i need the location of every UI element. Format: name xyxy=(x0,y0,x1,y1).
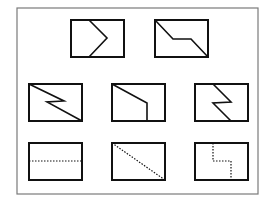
answer-figure-f xyxy=(29,143,82,180)
solid-line xyxy=(112,84,147,121)
figure-box xyxy=(29,84,82,121)
solid-line xyxy=(89,20,107,57)
figure-box xyxy=(112,84,165,121)
answer-figure-h xyxy=(195,143,248,180)
dotted-line xyxy=(112,143,165,180)
answer-figure-g xyxy=(112,143,165,180)
figure-group xyxy=(29,20,248,180)
question-figure-b xyxy=(155,20,208,57)
middle-figure-e xyxy=(195,84,248,121)
solid-line xyxy=(29,84,82,121)
question-figure-a xyxy=(71,20,124,57)
dotted-line xyxy=(213,143,231,180)
solid-line xyxy=(155,20,208,57)
middle-figure-c xyxy=(29,84,82,121)
figure-box xyxy=(71,20,124,57)
middle-figure-d xyxy=(112,84,165,121)
solid-line xyxy=(213,84,231,121)
figure-puzzle-diagram xyxy=(0,0,269,204)
figure-box xyxy=(195,143,248,180)
